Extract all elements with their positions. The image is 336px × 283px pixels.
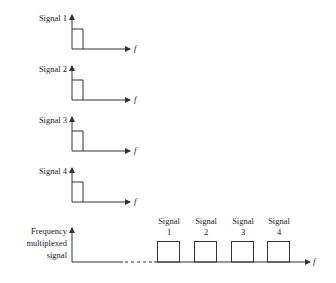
multiplexed-label-line2: multiplexed <box>0 238 67 248</box>
signal-3-label: Signal 3 <box>0 115 67 125</box>
multiplexed-f-label: f <box>313 256 316 266</box>
signal-2-spectrum <box>72 66 130 100</box>
signal-1-spectrum <box>72 15 130 49</box>
signal-2-label: Signal 2 <box>0 64 67 74</box>
band-3-label-line1: Signal <box>227 216 259 226</box>
signal-1-f-label: f <box>134 43 137 53</box>
band-3-label-line2: 3 <box>227 227 259 237</box>
band-2-label-line1: Signal <box>190 216 222 226</box>
signal-3-f-label: f <box>134 145 137 155</box>
multiplexed-label-line1: Frequency <box>0 226 67 236</box>
band-1-label-line2: 1 <box>153 227 185 237</box>
signal-4-f-label: f <box>134 196 137 206</box>
signal-4-label: Signal 4 <box>0 166 67 176</box>
multiplexed-label-line3: signal <box>0 250 67 260</box>
signal-2-f-label: f <box>134 94 137 104</box>
band-1-label-line1: Signal <box>153 216 185 226</box>
band-4-label-line1: Signal <box>263 216 295 226</box>
band-4-label-line2: 4 <box>263 227 295 237</box>
signal-3-spectrum <box>72 117 130 151</box>
band-2-label-line2: 2 <box>190 227 222 237</box>
signal-4-spectrum <box>72 168 130 202</box>
signal-1-label: Signal 1 <box>0 13 67 23</box>
